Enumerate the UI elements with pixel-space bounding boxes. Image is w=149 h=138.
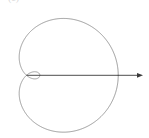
limacon-plot (0, 0, 149, 138)
axis-group (27, 73, 144, 78)
axis-arrowhead-icon (137, 73, 143, 78)
figure-panel: (c) (0, 0, 149, 138)
